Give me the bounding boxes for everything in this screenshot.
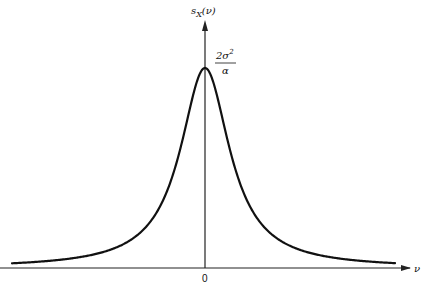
peak-label-numerator: 2σ2 xyxy=(215,48,234,61)
x-axis-arrow-icon xyxy=(401,265,411,271)
peak-label: 2σ2 α xyxy=(215,48,236,76)
y-axis-arrow-icon xyxy=(202,20,208,31)
spectral-density-chart: ν sX(ν) 2σ2 α 0 xyxy=(0,0,421,287)
y-axis-label: sX(ν) xyxy=(191,5,216,19)
x-tick-zero: 0 xyxy=(202,273,208,284)
x-axis-label: ν xyxy=(414,263,420,274)
spectral-density-curve xyxy=(12,68,395,263)
peak-label-denominator: α xyxy=(222,65,229,76)
